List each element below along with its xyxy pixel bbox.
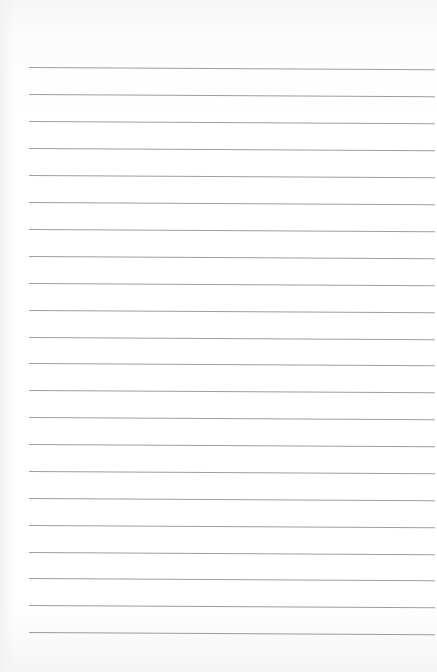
ruled-line <box>29 229 435 232</box>
ruled-line <box>29 202 435 205</box>
ruled-line <box>29 525 435 528</box>
ruled-line <box>29 632 435 635</box>
ruled-line <box>29 121 435 124</box>
ruled-line <box>29 94 435 97</box>
ruled-line <box>29 363 435 366</box>
lined-paper-sheet <box>0 0 437 672</box>
ruled-line <box>29 444 435 447</box>
ruled-line <box>29 498 435 501</box>
ruled-line <box>29 471 435 474</box>
ruled-line <box>29 283 435 286</box>
ruled-line <box>29 310 435 313</box>
ruled-line <box>29 256 435 259</box>
ruled-line <box>29 578 435 581</box>
ruled-line <box>29 552 435 555</box>
ruled-line <box>29 390 435 393</box>
ruled-line <box>29 175 435 178</box>
ruled-line <box>29 148 435 151</box>
ruled-line <box>29 417 435 420</box>
ruled-line <box>29 605 435 608</box>
ruled-line <box>29 337 435 340</box>
ruled-line <box>29 67 435 70</box>
